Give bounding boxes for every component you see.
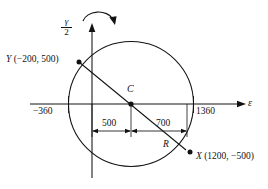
- point-symbol-X: X: [196, 151, 202, 161]
- point-coords-X: (1200, −500): [204, 151, 254, 161]
- center-label-C: C: [127, 84, 134, 94]
- dim-700-arrow-left: [131, 129, 137, 133]
- rotation-arrow-head: [109, 16, 116, 25]
- epsilon-axis-label: ε: [248, 98, 252, 108]
- epsilon-axis-arrowhead: [237, 101, 246, 108]
- gamma-axis-arrowhead: [89, 23, 96, 32]
- dimension-label-700: 700: [156, 119, 170, 129]
- axis-tick-label-right: 1360: [196, 107, 215, 117]
- dim-500-arrow-right: [125, 129, 131, 133]
- point-marker-X: [188, 150, 193, 155]
- point-coords-Y: (−200, 500): [14, 54, 59, 64]
- point-symbol-Y: Y: [6, 54, 11, 64]
- radius-label-R: R: [163, 140, 169, 150]
- dim-500-arrow-left: [92, 129, 98, 133]
- gamma-denominator: 2: [61, 28, 72, 37]
- gamma-over-two-label: γ 2: [61, 17, 72, 38]
- point-marker-Y: [77, 60, 82, 65]
- gamma-numerator: γ: [61, 17, 72, 26]
- axis-tick-label-left: −360: [33, 107, 53, 117]
- dimension-label-500: 500: [102, 119, 116, 129]
- rotation-curved-arrow: [83, 12, 113, 21]
- point-label-X: X (1200, −500): [196, 152, 254, 162]
- point-label-Y: Y (−200, 500): [6, 55, 59, 65]
